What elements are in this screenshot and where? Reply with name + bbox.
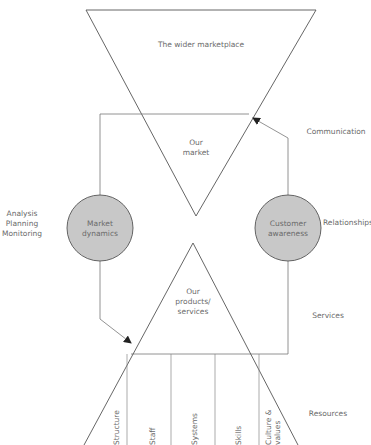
resource-skills: Skills	[234, 426, 243, 445]
resource-staff: Staff	[148, 428, 157, 445]
wider-marketplace-label: The wider marketplace	[146, 40, 256, 50]
resource-structure: Structure	[112, 410, 121, 445]
resource-systems: Systems	[190, 413, 199, 445]
services-label: Services	[308, 311, 348, 321]
resource-culture-values: Culture & values	[264, 409, 282, 445]
communication-label: Communication	[306, 127, 366, 137]
loop-frame-left	[100, 114, 249, 196]
loop-frame-bottom	[100, 260, 131, 343]
customer-awareness-label: Customer awareness	[258, 219, 318, 239]
market-dynamics-label: Market dynamics	[75, 219, 125, 239]
monitoring-label: Monitoring	[2, 229, 42, 239]
products-services-label: Our products/ services	[168, 287, 218, 317]
our-market-label: Our market	[176, 138, 216, 158]
resources-label: Resources	[305, 409, 351, 419]
planning-label: Planning	[2, 219, 42, 229]
loop-frame-right	[253, 118, 288, 196]
relationships-label: Relationships	[323, 218, 369, 228]
analysis-label: Analysis	[2, 209, 42, 219]
